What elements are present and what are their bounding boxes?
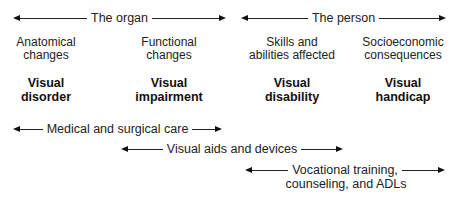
visual-aids-label: Visual aids and devices bbox=[163, 142, 301, 156]
arrow-right-icon bbox=[439, 15, 446, 21]
arrow-line bbox=[301, 149, 336, 150]
column-impairment: Functionalchanges Visualimpairment bbox=[120, 36, 218, 104]
vocational-arrow: Vocational training, bbox=[245, 163, 445, 177]
medical-care-label: Medical and surgical care bbox=[43, 122, 193, 136]
term: Visualdisorder bbox=[0, 76, 92, 104]
vocational-label-line1: Vocational training, bbox=[288, 163, 402, 177]
arrow-left-icon bbox=[121, 146, 128, 152]
arrow-right-icon bbox=[215, 126, 222, 132]
column-handicap: Socioeconomicconsequences Visualhandicap bbox=[350, 36, 456, 104]
arrow-left-icon bbox=[245, 167, 252, 173]
arrow-line bbox=[252, 170, 288, 171]
organ-arrow: The organ bbox=[13, 11, 226, 25]
medical-care-arrow: Medical and surgical care bbox=[13, 122, 222, 136]
person-label: The person bbox=[308, 11, 379, 25]
arrow-left-icon bbox=[13, 126, 20, 132]
vocational-label-line2: counseling, and ADLs bbox=[280, 178, 412, 191]
person-arrow: The person bbox=[241, 11, 446, 25]
column-disability: Skills andabilities affected Visualdisab… bbox=[238, 36, 346, 104]
arrow-line bbox=[192, 129, 215, 130]
term: Visualimpairment bbox=[120, 76, 218, 104]
visual-aids-arrow: Visual aids and devices bbox=[121, 142, 343, 156]
arrow-line bbox=[20, 129, 43, 130]
arrow-line bbox=[152, 18, 219, 19]
term: Visualhandicap bbox=[350, 76, 456, 104]
arrow-left-icon bbox=[241, 15, 248, 21]
description: Functionalchanges bbox=[120, 36, 218, 62]
organ-label: The organ bbox=[87, 11, 152, 25]
arrow-right-icon bbox=[438, 167, 445, 173]
arrow-line bbox=[20, 18, 87, 19]
arrow-right-icon bbox=[336, 146, 343, 152]
description: Anatomicalchanges bbox=[0, 36, 92, 62]
description: Socioeconomicconsequences bbox=[350, 36, 456, 62]
column-disorder: Anatomicalchanges Visualdisorder bbox=[0, 36, 92, 104]
arrow-left-icon bbox=[13, 15, 20, 21]
arrow-line bbox=[128, 149, 163, 150]
description: Skills andabilities affected bbox=[238, 36, 346, 62]
term: Visualdisability bbox=[238, 76, 346, 104]
arrow-line bbox=[379, 18, 439, 19]
arrow-right-icon bbox=[219, 15, 226, 21]
arrow-line bbox=[402, 170, 438, 171]
arrow-line bbox=[248, 18, 308, 19]
